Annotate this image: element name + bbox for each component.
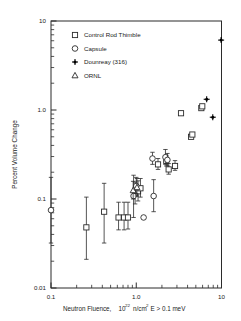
data-point	[48, 207, 54, 213]
legend-label: Control Rod Thimble	[84, 31, 141, 38]
legend-marker-filled-star	[72, 59, 78, 65]
y-tick-label: 0.01	[34, 284, 47, 291]
legend-marker-open-triangle	[72, 72, 78, 77]
data-point	[190, 132, 195, 137]
x-axis-label: Neutron Fluence,1022n/cm2E > 0.1 meV	[63, 303, 186, 312]
y-axis-label: Percent Volume Change	[11, 120, 19, 189]
legend-label: ORNL	[84, 72, 102, 79]
legend-marker-open-square	[72, 32, 77, 37]
data-point	[204, 96, 210, 102]
data-point	[172, 163, 177, 168]
legend-label: Dounreay (316)	[84, 58, 127, 65]
data-point	[165, 157, 171, 163]
x-tick-label: 10	[218, 293, 225, 300]
svg-text:E > 0.1 meV: E > 0.1 meV	[151, 305, 187, 312]
series-capsule	[48, 149, 170, 243]
y-tick-label: 0.1	[37, 195, 46, 202]
data-point	[178, 111, 183, 116]
data-point	[141, 215, 147, 221]
data-point	[166, 167, 171, 172]
plot-frame	[51, 21, 222, 288]
data-point	[210, 114, 216, 120]
data-point	[200, 104, 205, 109]
data-point	[150, 156, 156, 162]
data-point	[116, 215, 121, 220]
legend-marker-open-circle	[72, 46, 78, 52]
series-control-rod-thimble	[84, 104, 205, 260]
y-tick-label: 1.0	[37, 106, 46, 113]
legend: Control Rod ThimbleCapsuleDounreay (316)…	[72, 31, 141, 79]
data-point	[84, 225, 89, 230]
figure-container: 0.010.11.0100.11.010Percent Volume Chang…	[0, 0, 241, 321]
data-point	[102, 209, 107, 214]
svg-text:n/cm: n/cm	[133, 305, 147, 312]
legend-label: Capsule	[84, 45, 107, 52]
scatter-plot: 0.010.11.0100.11.010Percent Volume Chang…	[0, 0, 241, 321]
svg-text:2: 2	[146, 303, 149, 308]
x-tick-label: 0.1	[47, 293, 56, 300]
data-point	[125, 215, 130, 220]
svg-text:22: 22	[125, 303, 130, 308]
data-point	[218, 37, 224, 43]
svg-text:Neutron Fluence,: Neutron Fluence,	[63, 305, 112, 312]
data-point	[151, 193, 157, 199]
x-tick-label: 1.0	[132, 293, 141, 300]
y-tick-label: 10	[39, 17, 46, 24]
data-point	[155, 162, 160, 167]
